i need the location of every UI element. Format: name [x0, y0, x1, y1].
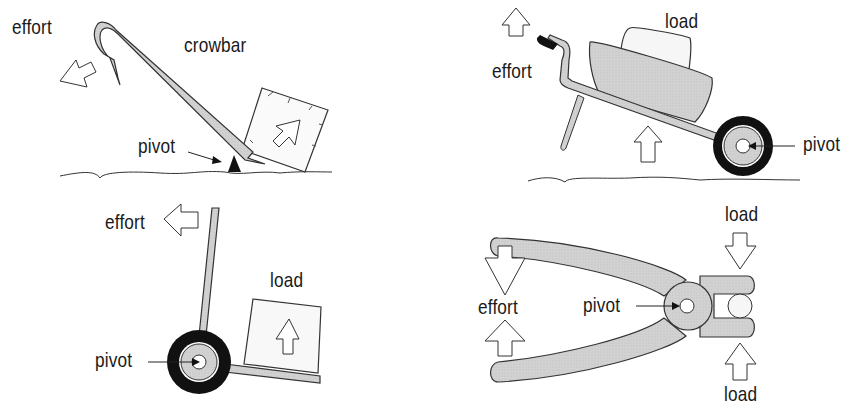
crate-load — [242, 88, 328, 172]
pliers-lower-handle — [491, 318, 687, 382]
hand-truck-pivot-label: pivot — [95, 348, 132, 372]
hand-truck-effort-label: effort — [105, 210, 145, 234]
effort-arrow-icon — [60, 60, 96, 87]
pivot-triangle-icon — [228, 155, 241, 172]
effort-arrow-up-icon — [485, 320, 525, 356]
wheelbarrow-panel — [502, 8, 800, 182]
gripped-object — [728, 294, 752, 318]
pliers-effort-label: effort — [478, 295, 518, 319]
crowbar-effort-label: effort — [12, 15, 52, 39]
wheelbarrow-effort-label: effort — [492, 59, 532, 83]
pivot-pointer-arrow — [188, 152, 214, 160]
crowbar-title-label: crowbar — [184, 33, 246, 57]
pliers-load-top-label: load — [725, 202, 758, 226]
pliers-load-bottom-label: load — [724, 382, 757, 406]
effort-arrow-icon — [502, 8, 530, 36]
wheelbarrow-load-label: load — [665, 9, 698, 33]
pliers-panel — [485, 233, 756, 382]
load-arrow-down-icon — [725, 233, 756, 269]
pliers-pivot-label: pivot — [583, 293, 620, 317]
hand-truck-panel — [148, 204, 321, 394]
wheelbarrow-pivot-label: pivot — [803, 132, 840, 156]
effort-arrow-icon — [164, 204, 198, 236]
crowbar-pivot-label: pivot — [138, 134, 175, 158]
ground-line — [60, 172, 332, 178]
upward-arrow-icon — [634, 126, 662, 162]
ground-line — [528, 177, 800, 182]
load-arrow-up-icon — [725, 343, 756, 380]
hand-truck-load-label: load — [270, 268, 303, 292]
